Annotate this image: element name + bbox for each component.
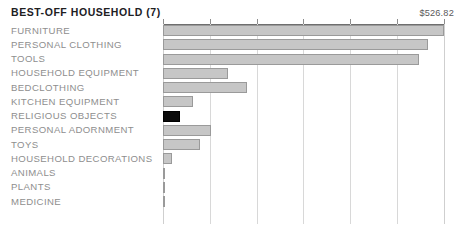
bar[interactable] [163, 68, 228, 79]
chart-title: BEST-OFF HOUSEHOLD (7) [11, 6, 161, 18]
bar-category-label: ANIMALS [11, 167, 56, 179]
bar[interactable] [163, 182, 165, 193]
bar-category-label: HOUSEHOLD EQUIPMENT [11, 67, 139, 79]
bar-category-label: PLANTS [11, 181, 51, 193]
bar-row[interactable]: HOUSEHOLD EQUIPMENT [0, 67, 454, 81]
bar[interactable] [163, 153, 172, 164]
bar-category-label: PERSONAL CLOTHING [11, 39, 122, 51]
bar-category-label: TOYS [11, 139, 39, 151]
bar[interactable] [163, 96, 193, 107]
bar-row[interactable]: TOYS [0, 138, 454, 152]
bar-row[interactable]: MEDICINE [0, 195, 454, 209]
bar-row[interactable]: RELIGIOUS OBJECTS [0, 110, 454, 124]
bar-row[interactable]: PLANTS [0, 181, 454, 195]
max-value-label: $526.82 [419, 8, 454, 18]
bar-row[interactable]: PERSONAL ADORNMENT [0, 124, 454, 138]
bar-category-label: BEDCLOTHING [11, 82, 85, 94]
bar[interactable] [163, 54, 419, 65]
bar[interactable] [163, 139, 200, 150]
bar-row-group: FURNITUREPERSONAL CLOTHINGTOOLSHOUSEHOLD… [0, 24, 454, 224]
bar-category-label: HOUSEHOLD DECORATIONS [11, 153, 153, 165]
bar-category-label: PERSONAL ADORNMENT [11, 124, 134, 136]
bar[interactable] [163, 25, 444, 36]
bar-category-label: KITCHEN EQUIPMENT [11, 96, 120, 108]
bar-row[interactable]: PERSONAL CLOTHING [0, 38, 454, 52]
bar-row[interactable]: KITCHEN EQUIPMENT [0, 95, 454, 109]
bar-chart: BEST-OFF HOUSEHOLD (7) $526.82 FURNITURE… [0, 0, 454, 237]
bar-category-label: TOOLS [11, 53, 45, 65]
bar[interactable] [163, 39, 428, 50]
bar-row[interactable]: FURNITURE [0, 24, 454, 38]
bar[interactable] [163, 82, 247, 93]
bar-row[interactable]: BEDCLOTHING [0, 81, 454, 95]
bar[interactable] [163, 196, 165, 207]
bar-category-label: FURNITURE [11, 25, 70, 37]
bar-row[interactable]: TOOLS [0, 53, 454, 67]
bar[interactable] [163, 125, 211, 136]
bar-row[interactable]: HOUSEHOLD DECORATIONS [0, 152, 454, 166]
bar-category-label: RELIGIOUS OBJECTS [11, 110, 117, 122]
bar[interactable] [163, 168, 165, 179]
bar-category-label: MEDICINE [11, 196, 61, 208]
bar-highlighted[interactable] [163, 111, 180, 122]
bar-row[interactable]: ANIMALS [0, 167, 454, 181]
